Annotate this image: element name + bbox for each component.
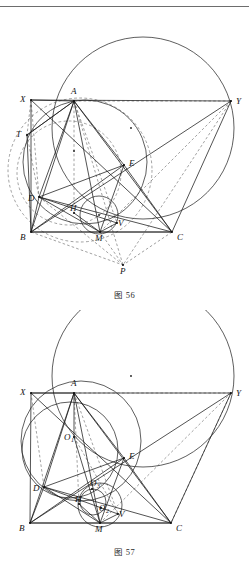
point-label-subscript-O1: 1 [71,437,74,443]
vertex-dot-C [171,231,173,233]
point-label-Y: Y [236,388,242,398]
center-dot-2 [73,150,75,152]
figure-56-canvas: XAYTEDHVBMCP [0,10,249,285]
figure-57-caption: 图 57 [0,545,249,557]
segment-TB [27,135,31,232]
dashed-segment-YM [100,393,231,523]
point-label-D: D [27,193,35,203]
point-label-C: C [176,523,183,533]
segment-XB [30,393,31,523]
circle-circumcircle [52,310,234,467]
segment-AE [74,101,124,165]
dashed-segment-DP [39,197,123,265]
segment-EC [124,165,172,232]
vertex-dot-Y [230,100,232,102]
point-label-B: B [19,523,25,533]
center-dot-0 [130,127,132,129]
vertex-dot-B [29,522,31,524]
vertex-dot-D [43,486,45,488]
dashed-segment-MP [100,232,123,265]
segment-XC [31,100,172,232]
page-top-rule [0,6,249,7]
segment-EC [124,458,171,523]
point-label-M: M [94,233,103,243]
point-label-X: X [19,387,26,397]
center-dot-0 [130,375,132,377]
vertex-dot-C [170,522,172,524]
vertex-dot-E [123,164,125,166]
dashed-segment-XT [27,100,31,135]
vertex-dot-A [73,392,75,394]
dashed-segment-XD [31,393,44,487]
dashed-segment-CP [123,232,172,265]
figure-page: XAYTEDHVBMCP 图 56 XAYO1EDO3HO2VBMC 图 57 [0,0,249,564]
figure-56-caption: 图 56 [0,288,249,300]
vertex-dot-Y [230,392,232,394]
dashed-segment-XD [31,100,39,197]
point-label-P: P [119,266,126,276]
point-label-B: B [20,232,26,242]
dashed-segment-BP [31,232,123,265]
point-label-Y: Y [236,96,242,106]
point-label-E: E [128,158,135,168]
vertex-dot-D [38,196,40,198]
point-label-X: X [19,94,26,104]
point-label-M: M [94,524,103,534]
segment-AE [74,393,124,458]
vertex-dot-T [26,134,28,136]
vertex-dot-A [73,100,75,102]
segment-AC [74,101,172,232]
figure-57: XAYO1EDO3HO2VBMC [0,310,249,542]
figure-56: XAYTEDHVBMCP [0,10,249,285]
vertex-dot-E [123,457,125,459]
segment-DM [44,487,100,523]
point-label-D: D [32,483,40,493]
point-label-subscript-O3: 3 [96,483,100,489]
point-label-subscript-O2: 2 [106,508,109,514]
dashed-segment-AH [74,393,79,504]
vertex-dot-X [30,392,32,394]
point-label-V: V [119,509,126,519]
segment-AT [27,101,74,135]
figure-57-canvas: XAYO1EDO3HO2VBMC [0,310,249,542]
point-label-C: C [177,232,184,242]
point-label-A: A [70,378,77,388]
vertex-dot-O3 [91,488,93,490]
point-label-E: E [128,451,135,461]
point-label-H: H [74,494,82,504]
circle-arc-left [17,121,121,225]
point-label-A: A [70,86,77,96]
vertex-dot-X [30,99,32,101]
point-label-H: H [69,203,77,213]
center-dot-1 [98,214,100,216]
vertex-dot-B [30,231,32,233]
point-label-T: T [16,129,22,139]
